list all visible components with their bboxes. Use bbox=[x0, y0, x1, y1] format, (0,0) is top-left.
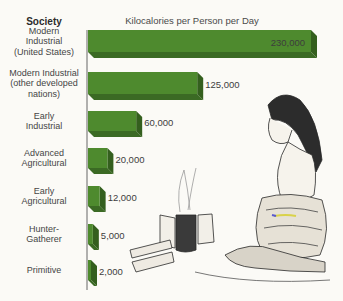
category-label: Advanced bbox=[24, 148, 64, 158]
bar bbox=[88, 72, 197, 94]
chart: Society Kilocalories per Person per Day … bbox=[0, 0, 343, 301]
category-label: Industrial bbox=[26, 36, 63, 46]
bar-bottom-face bbox=[88, 131, 142, 137]
category-label: Agricultural bbox=[21, 158, 66, 168]
data-label: 230,000 bbox=[271, 37, 305, 48]
data-label: 125,000 bbox=[205, 79, 239, 90]
data-label: 20,000 bbox=[115, 154, 144, 165]
category-label: Gatherer bbox=[26, 234, 62, 244]
bar-bottom-face bbox=[88, 52, 317, 58]
category-label: Early bbox=[34, 111, 55, 121]
bar bbox=[88, 186, 100, 206]
bar-bottom-face bbox=[88, 94, 203, 100]
data-label: 2,000 bbox=[99, 266, 123, 277]
category-label: Early bbox=[34, 186, 55, 196]
category-label: nations) bbox=[28, 89, 60, 99]
data-label: 12,000 bbox=[108, 192, 137, 203]
bar-group bbox=[88, 224, 99, 250]
bar-group bbox=[88, 111, 142, 137]
bar-group bbox=[88, 72, 203, 100]
category-label: Industrial bbox=[26, 121, 63, 131]
category-label: (United States) bbox=[14, 47, 74, 57]
data-label: 5,000 bbox=[101, 230, 125, 241]
category-label: Modern Industrial bbox=[9, 68, 79, 78]
category-label: Agricultural bbox=[21, 196, 66, 206]
category-label: Hunter- bbox=[29, 224, 59, 234]
chart-title: Kilocalories per Person per Day bbox=[125, 15, 259, 26]
bar bbox=[88, 224, 93, 244]
bar bbox=[88, 260, 91, 280]
bar bbox=[88, 111, 136, 131]
data-label: 60,000 bbox=[144, 117, 173, 128]
bar-group bbox=[88, 148, 113, 174]
category-label: (other developed bbox=[10, 78, 78, 88]
bar-group bbox=[88, 260, 97, 286]
category-label: Primitive bbox=[27, 265, 62, 275]
bar bbox=[88, 148, 107, 168]
category-label: Modern bbox=[29, 26, 60, 36]
bar-group bbox=[88, 186, 106, 212]
